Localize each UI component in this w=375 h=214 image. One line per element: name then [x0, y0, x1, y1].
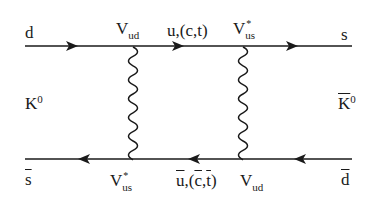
meson-base: K: [25, 94, 37, 113]
label-d-quark: d: [25, 24, 34, 41]
label-vertex-bottom-left: V*us: [110, 172, 132, 189]
label-k0-bar-meson: K0: [338, 95, 356, 112]
antiquark-c: c: [194, 171, 202, 190]
label-internal-bottom-antiquarks: u,(c,t): [176, 172, 217, 189]
ckm-base: V: [116, 19, 128, 38]
label-s-bar-quark: s: [25, 171, 32, 188]
label-s-quark: s: [341, 26, 348, 43]
ckm-base: V: [240, 171, 252, 190]
antiquark-u: u: [176, 171, 185, 190]
ckm-superscript: *: [246, 18, 251, 29]
meson-superscript: 0: [37, 93, 43, 105]
label-d-bar-quark: d: [341, 171, 350, 188]
separator: ,(: [185, 171, 195, 190]
label-k0-meson: K0: [25, 95, 43, 112]
ckm-base: V: [233, 19, 245, 38]
label-vertex-top-right: V*us: [233, 20, 255, 37]
meson-superscript: 0: [350, 93, 356, 105]
label-internal-top-quarks: u,(c,t): [167, 22, 208, 39]
label-vertex-bottom-right: Vud: [240, 172, 263, 189]
ckm-base: V: [110, 171, 122, 190]
meson-base: K: [338, 94, 350, 113]
w-boson-left-wavy-line: [129, 47, 138, 160]
w-boson-right-wavy-line: [239, 47, 248, 160]
ckm-subscript: us: [122, 181, 132, 193]
separator: ): [211, 171, 217, 190]
ckm-subscript: ud: [252, 181, 263, 193]
ckm-superscript: *: [123, 170, 128, 181]
feynman-diagram: d s s d K0 K0 Vud V*us V*us Vud u,(c,t) …: [0, 0, 375, 214]
label-vertex-top-left: Vud: [116, 20, 139, 37]
ckm-subscript: ud: [128, 29, 139, 41]
ckm-subscript: us: [245, 29, 255, 41]
